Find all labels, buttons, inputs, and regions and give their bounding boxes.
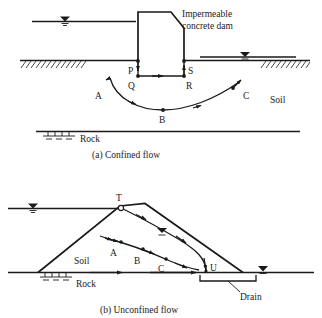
panel-b-unconfined-flow: T A B C U Soil Rock Drain (b) Unconfined… [8,193,314,316]
node-c-a [231,86,235,90]
label-point-t-b: T [116,193,122,203]
node-q-a [136,74,140,78]
label-soil-a: Soil [270,95,286,105]
label-rock-b: Rock [76,279,96,289]
drain-bracket-b [200,275,256,281]
label-drain-b: Drain [240,292,262,302]
label-point-b-a: B [159,115,165,125]
node-b-b [141,247,145,251]
ground-hatching-left-a [21,61,86,68]
label-soil-b: Soil [74,256,90,266]
label-impermeable-line1-a: Impermeable [182,9,232,19]
phreatic-arrow-2-b [176,236,186,243]
flow-arrow-a-start-a [106,78,110,80]
drain-leader-line-b [228,281,240,292]
node-r-a [182,74,186,78]
node-a-b [119,240,123,244]
rock-support-symbol-a [43,132,75,139]
label-point-a-a: A [95,91,102,101]
label-point-r-a: R [186,81,193,91]
node-c-b [164,257,168,261]
node-b-a [161,108,165,112]
label-point-q-a: Q [128,81,135,91]
caption-panel-b: (b) Unconfined flow [100,305,178,316]
rock-support-symbol-b [40,273,72,280]
node-p-a [136,59,140,63]
flow-arrow-bc-a [193,106,201,109]
label-impermeable-line2-a: concrete dam [182,21,234,31]
node-t-b [118,205,123,210]
label-point-b-b: B [134,256,140,266]
flow-arrow-c-b [175,263,187,268]
downstream-water-table-symbol-a [240,52,250,59]
label-point-p-a: P [128,66,133,76]
label-point-c-b: C [158,264,164,274]
label-point-u-b: U [210,263,217,273]
flow-arrow-ab-a [128,101,136,105]
label-point-c-a: C [243,91,249,101]
node-s-a [182,59,186,63]
seepage-flow-figure: Impermeable concrete dam P Q R S A B C S… [0,0,322,318]
panel-a-confined-flow: Impermeable concrete dam P Q R S A B C S… [20,9,310,161]
ground-hatching-right-a [261,61,310,68]
label-rock-a: Rock [80,134,100,144]
node-u-b [204,269,207,272]
label-point-s-a: S [188,66,193,76]
caption-panel-a: (a) Confined flow [92,150,160,161]
label-point-a-b: A [110,248,117,258]
figure-canvas: Impermeable concrete dam P Q R S A B C S… [0,0,322,318]
flow-start-arrow-b [100,236,112,240]
concrete-dam-body-a [138,12,184,61]
